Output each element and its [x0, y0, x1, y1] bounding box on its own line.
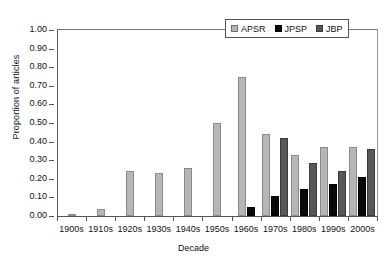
y-tick-mark [49, 197, 54, 198]
y-tick-mark [49, 86, 54, 87]
y-tick-mark [49, 179, 54, 180]
bar-jpsp-1980s [300, 189, 308, 216]
y-tick-mark [49, 142, 54, 143]
legend-label: JPSP [285, 24, 308, 34]
y-axis-title: Proportion of articles [11, 27, 21, 167]
bar-jbp-1970s [280, 138, 288, 216]
y-tick-label: 0.50 [29, 117, 47, 127]
bar-apsr-1950s [213, 123, 221, 216]
x-tick-mark [261, 216, 262, 221]
x-tick-label: 1910s [88, 224, 113, 234]
legend-label: JBP [326, 24, 343, 34]
y-tick-label: 0.90 [29, 43, 47, 53]
bar-jbp-2000s [367, 149, 375, 216]
bar-apsr-1900s [68, 214, 76, 216]
x-tick-label: 1990s [321, 224, 346, 234]
x-tick-mark [377, 216, 378, 221]
x-tick-mark [319, 216, 320, 221]
legend-swatch-jbp-icon [316, 25, 323, 32]
bar-apsr-1920s [126, 171, 134, 216]
bar-jpsp-1970s [271, 196, 279, 216]
x-tick-label: 1900s [59, 224, 84, 234]
legend-swatch-jpsp-icon [275, 25, 282, 32]
bar-apsr-1910s [97, 209, 105, 216]
x-tick-label: 2000s [350, 224, 375, 234]
x-tick-label: 1960s [234, 224, 259, 234]
y-tick-label: 0.80 [29, 61, 47, 71]
y-tick-label: 0.30 [29, 154, 47, 164]
bar-jpsp-1990s [329, 184, 337, 216]
y-tick-mark [49, 67, 54, 68]
x-tick-label: 1940s [176, 224, 201, 234]
bar-jbp-1980s [309, 163, 317, 216]
y-tick-label: 0.40 [29, 136, 47, 146]
y-tick-label: 0.20 [29, 173, 47, 183]
bar-apsr-1960s [238, 77, 246, 217]
bar-apsr-1980s [291, 155, 299, 216]
x-tick-label: 1980s [292, 224, 317, 234]
x-tick-mark [202, 216, 203, 221]
legend-item-jbp: JBP [316, 24, 343, 34]
legend-swatch-apsr-icon [231, 25, 238, 32]
x-tick-label: 1930s [147, 224, 172, 234]
y-tick-label: 0.00 [29, 210, 47, 220]
legend-label: APSR [241, 24, 266, 34]
bar-apsr-1930s [155, 173, 163, 216]
y-tick-mark [49, 123, 54, 124]
bar-apsr-1990s [320, 147, 328, 216]
y-tick-mark [49, 216, 54, 217]
y-tick-mark [49, 30, 54, 31]
x-tick-mark [348, 216, 349, 221]
bar-apsr-1970s [262, 134, 270, 216]
x-tick-mark [173, 216, 174, 221]
bar-chart: Proportion of articles 0.000.100.200.300… [0, 0, 387, 260]
bar-jbp-1990s [338, 171, 346, 216]
x-axis-title: Decade [0, 243, 387, 253]
x-tick-mark [57, 216, 58, 221]
legend-item-jpsp: JPSP [275, 24, 308, 34]
bar-jpsp-1960s [247, 207, 255, 216]
x-tick-mark [232, 216, 233, 221]
y-tick-label: 0.10 [29, 191, 47, 201]
y-tick-mark [49, 104, 54, 105]
x-tick-mark [290, 216, 291, 221]
y-tick-mark [49, 160, 54, 161]
plot-area [57, 30, 377, 216]
y-tick-label: 0.70 [29, 80, 47, 90]
x-tick-label: 1950s [205, 224, 230, 234]
plot-right-border [377, 29, 378, 217]
x-tick-mark [115, 216, 116, 221]
y-tick-label: 0.60 [29, 98, 47, 108]
legend-item-apsr: APSR [231, 24, 266, 34]
bar-jpsp-2000s [358, 177, 366, 216]
y-tick-label: 1.00 [29, 24, 47, 34]
bar-apsr-2000s [349, 147, 357, 216]
x-tick-label: 1970s [263, 224, 288, 234]
y-tick-mark [49, 49, 54, 50]
x-tick-label: 1920s [117, 224, 142, 234]
legend: APSRJPSPJBP [225, 19, 349, 38]
x-tick-mark [144, 216, 145, 221]
x-axis-line [57, 216, 378, 217]
x-tick-mark [86, 216, 87, 221]
bar-apsr-1940s [184, 168, 192, 216]
